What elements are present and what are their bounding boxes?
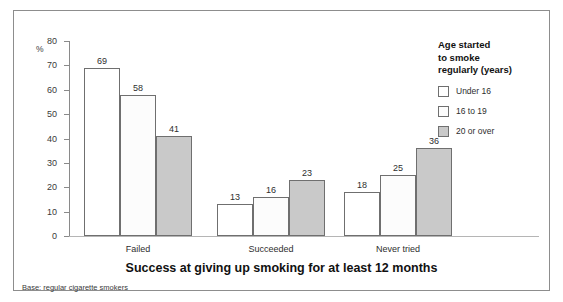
legend: Age started to smoke regularly (years) U… (438, 39, 550, 146)
plot-area: 80706050403020100 695841Failed131623Succ… (69, 41, 424, 236)
chart-figure: % 80706050403020100 695841Failed131623Su… (0, 0, 563, 302)
y-tick: 10 (64, 212, 69, 213)
legend-swatch (438, 126, 449, 137)
bar-value-label: 13 (230, 192, 240, 202)
y-tick-label: 0 (52, 231, 57, 241)
y-tick-label: 50 (47, 109, 57, 119)
y-tick: 70 (64, 65, 69, 66)
legend-item[interactable]: 20 or over (438, 126, 550, 137)
bar-value-label: 25 (393, 163, 403, 173)
legend-title-line-2: to smoke (438, 52, 550, 65)
x-axis-line (69, 236, 539, 237)
chart-frame: % 80706050403020100 695841Failed131623Su… (13, 10, 550, 291)
base-note: Base: regular cigarette smokers (22, 283, 128, 292)
y-tick: 40 (64, 139, 69, 140)
legend-item-label: 16 to 19 (456, 106, 487, 116)
bar-value-label: 58 (133, 83, 143, 93)
legend-item[interactable]: Under 16 (438, 86, 550, 97)
bar-group: 695841Failed (84, 41, 192, 236)
y-tick-label: 10 (47, 207, 57, 217)
chart-title: Success at giving up smoking for at leas… (14, 261, 549, 275)
bar[interactable]: 36 (416, 148, 452, 236)
bar[interactable]: 41 (156, 136, 192, 236)
legend-title-line-3: regularly (years) (438, 64, 550, 77)
legend-item[interactable]: 16 to 19 (438, 106, 550, 117)
x-category-label: Succeeded (248, 244, 293, 254)
y-tick-label: 60 (47, 85, 57, 95)
bar-value-label: 41 (169, 124, 179, 134)
bar-value-label: 23 (302, 168, 312, 178)
x-category-label: Failed (126, 244, 151, 254)
y-tick-label: 20 (47, 182, 57, 192)
y-axis-unit-label: % (36, 44, 44, 54)
legend-item-label: 20 or over (456, 126, 494, 136)
y-tick-label: 40 (47, 134, 57, 144)
bar-group: 131623Succeeded (217, 41, 325, 236)
y-tick: 50 (64, 114, 69, 115)
bar[interactable]: 18 (344, 192, 380, 236)
x-category-label: Never tried (376, 244, 420, 254)
bar[interactable]: 13 (217, 204, 253, 236)
bar-group: 182536Never tried (344, 41, 452, 236)
bar[interactable]: 23 (289, 180, 325, 236)
bar[interactable]: 69 (84, 68, 120, 236)
legend-swatch (438, 106, 449, 117)
y-axis-line (69, 41, 70, 236)
legend-title-line-1: Age started (438, 39, 550, 52)
bar[interactable]: 58 (120, 95, 156, 236)
legend-title: Age started to smoke regularly (years) (438, 39, 550, 77)
legend-items: Under 1616 to 1920 or over (438, 86, 550, 137)
y-tick-label: 80 (47, 36, 57, 46)
y-tick: 30 (64, 163, 69, 164)
y-tick-label: 30 (47, 158, 57, 168)
bar-value-label: 69 (97, 56, 107, 66)
bar-value-label: 16 (266, 185, 276, 195)
y-tick: 20 (64, 187, 69, 188)
y-tick-label: 70 (47, 60, 57, 70)
bar[interactable]: 25 (380, 175, 416, 236)
y-tick: 80 (64, 41, 69, 42)
bar[interactable]: 16 (253, 197, 289, 236)
y-tick: 0 (64, 236, 69, 237)
legend-swatch (438, 86, 449, 97)
legend-item-label: Under 16 (456, 86, 491, 96)
bar-value-label: 18 (357, 180, 367, 190)
y-tick: 60 (64, 90, 69, 91)
